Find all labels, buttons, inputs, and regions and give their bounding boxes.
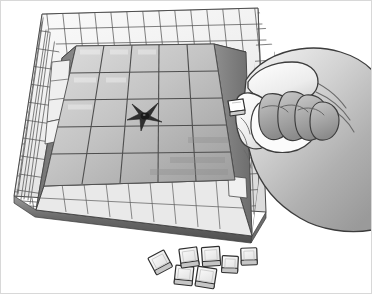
finger-4 [310, 102, 339, 140]
list-item [201, 246, 220, 266]
illustration-canvas: Hand placing a tile on a gridded tray bo… [0, 0, 372, 294]
tile-board-illustration [0, 0, 372, 294]
list-item [179, 247, 199, 268]
list-item [241, 248, 258, 266]
list-item [195, 266, 217, 289]
held-tile [228, 99, 245, 116]
list-item [222, 256, 239, 274]
